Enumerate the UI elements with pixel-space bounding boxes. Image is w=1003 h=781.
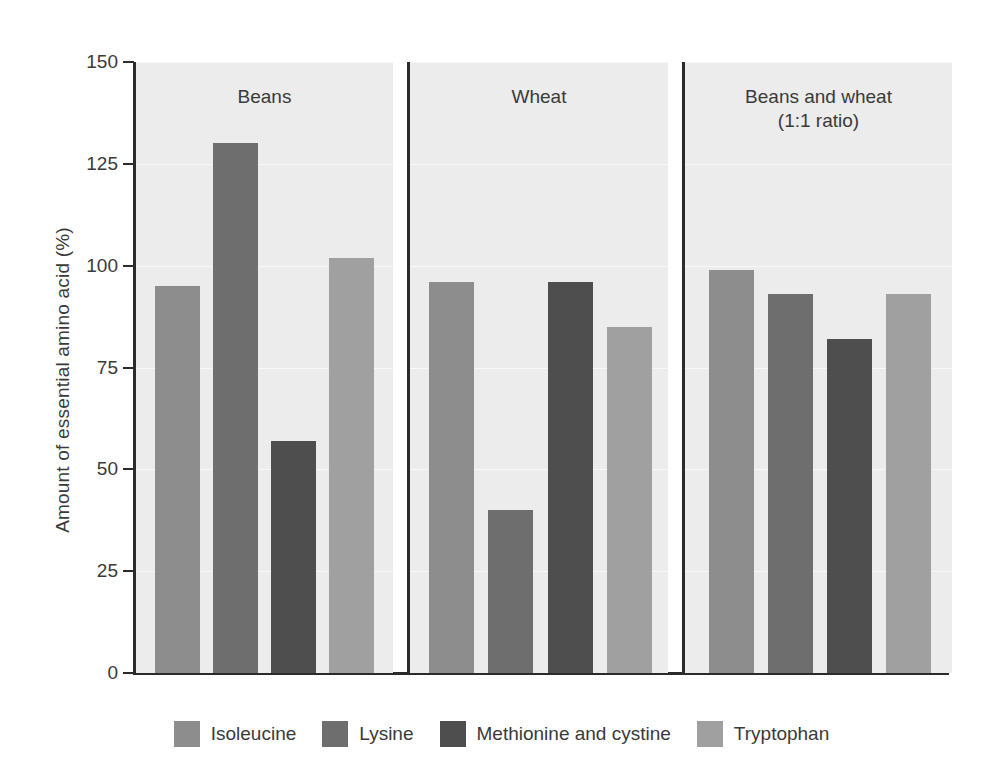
y-axis-tick: 25 [62, 563, 134, 579]
y-axis-tick-label: 50 [97, 458, 118, 480]
y-axis-tick: 100 [62, 258, 134, 274]
bar [429, 282, 474, 673]
bar [271, 441, 316, 673]
y-axis-tick: 75 [62, 360, 134, 376]
y-axis-tick-label: 0 [107, 662, 118, 684]
y-axis-tick-label: 25 [97, 560, 118, 582]
legend-item[interactable]: Lysine [322, 721, 413, 747]
chart-legend: IsoleucineLysineMethionine and cystineTr… [0, 714, 1003, 754]
y-axis-tick-label: 100 [86, 255, 118, 277]
bar [548, 282, 593, 673]
bar-group [685, 62, 952, 673]
bar [329, 258, 374, 673]
bar-chart-figure: Amount of essential amino acid (%) 15012… [0, 0, 1003, 781]
legend-swatch-icon [322, 721, 348, 747]
y-axis-tick-label: 125 [86, 153, 118, 175]
bar [155, 286, 200, 673]
bar [827, 339, 872, 673]
panel-beans-and-wheat: Beans and wheat (1:1 ratio) [682, 62, 952, 673]
y-axis-tick: 50 [62, 461, 134, 477]
legend-swatch-icon [697, 721, 723, 747]
y-axis-tick-label: 75 [97, 357, 118, 379]
legend-item[interactable]: Isoleucine [174, 721, 297, 747]
panel-wheat: Wheat [407, 62, 668, 673]
y-axis-tick-group: 1501251007550250 [62, 50, 134, 690]
bar [213, 143, 258, 673]
bar-group [136, 62, 393, 673]
bar [768, 294, 813, 673]
bar [488, 510, 533, 673]
bar [709, 270, 754, 673]
y-axis-tick: 0 [62, 665, 134, 681]
y-axis-tick: 125 [62, 156, 134, 172]
bar-group [410, 62, 668, 673]
legend-label: Isoleucine [211, 723, 297, 745]
legend-swatch-icon [174, 721, 200, 747]
y-axis-tick: 150 [62, 54, 134, 70]
panel-beans: Beans [136, 62, 393, 673]
legend-swatch-icon [440, 721, 466, 747]
legend-label: Lysine [359, 723, 413, 745]
legend-label: Tryptophan [734, 723, 829, 745]
y-axis-tick-label: 150 [86, 51, 118, 73]
legend-item[interactable]: Tryptophan [697, 721, 829, 747]
bar [886, 294, 931, 673]
bar [607, 327, 652, 673]
legend-label: Methionine and cystine [477, 723, 671, 745]
legend-item[interactable]: Methionine and cystine [440, 721, 671, 747]
